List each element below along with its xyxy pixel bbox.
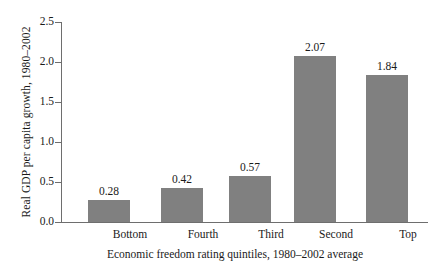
x-axis-line [61, 222, 428, 223]
y-tick-label-0-5: 0.5 [28, 176, 54, 188]
y-tick-label-2-5: 2.5 [28, 16, 54, 28]
y-axis-tick-labels: 2.5 2.0 1.5 1.0 0.5 0.0 [27, 0, 54, 272]
y-tick-mark-0-0 [55, 222, 61, 223]
plot-area: 0.28 0.42 0.57 2.07 1.84 [61, 22, 428, 222]
x-axis-title: Economic freedom rating quintiles, 1980–… [0, 247, 448, 261]
bar-third [229, 176, 271, 222]
bar-fourth [161, 188, 203, 222]
x-tick-label-top: Top [363, 227, 448, 241]
y-tick-label-1-5: 1.5 [28, 96, 54, 108]
bar-value-fourth: 0.42 [147, 173, 217, 185]
x-axis-tick-labels: Bottom Fourth Third Second Top [61, 227, 428, 243]
y-tick-label-1-0: 1.0 [28, 136, 54, 148]
y-tick-label-2-0: 2.0 [28, 56, 54, 68]
bar-value-bottom: 0.28 [74, 185, 144, 197]
bar-second [294, 56, 336, 222]
bar-chart-figure: Real GDP per capita growth, 1980–2002 2.… [0, 0, 448, 272]
bar-value-third: 0.57 [215, 161, 285, 173]
y-tick-label-0-0: 0.0 [28, 216, 54, 228]
bar-value-top: 1.84 [352, 60, 422, 72]
bar-top [366, 75, 408, 222]
bar-bottom [88, 200, 130, 222]
bar-value-second: 2.07 [280, 41, 350, 53]
